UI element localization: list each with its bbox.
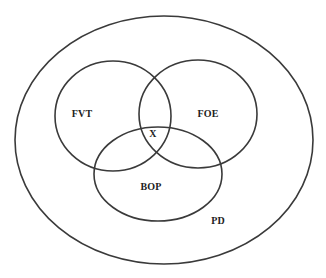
label-bop: BOP [140, 181, 161, 192]
label-intersection-x: X [149, 128, 156, 139]
outer-ellipse-pd [15, 16, 313, 264]
label-pd: PD [211, 215, 225, 226]
label-fvt: FVT [72, 108, 93, 119]
circle-bop [94, 127, 222, 221]
label-foe: FOE [197, 108, 218, 119]
venn-diagram [0, 0, 326, 278]
